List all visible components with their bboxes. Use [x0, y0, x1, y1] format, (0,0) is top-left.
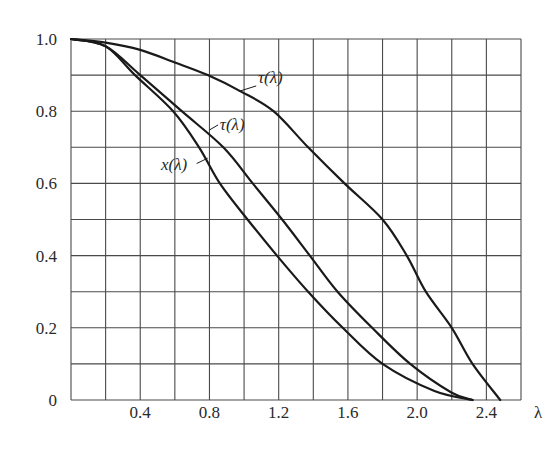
- x-tick-label: 0.8: [199, 403, 220, 422]
- x-tick-label: 1.2: [268, 403, 289, 422]
- y-tick-label: 0.8: [36, 102, 57, 121]
- y-tick-label: 0.6: [36, 174, 57, 193]
- label-leader-line: [239, 86, 256, 91]
- series-label: τ(λ): [258, 68, 283, 87]
- y-tick-label: 0.2: [36, 319, 57, 338]
- curve-labels: τ(λ)τ(λ)x(λ): [160, 68, 283, 174]
- line-chart: τ(λ)τ(λ)x(λ) 00.20.40.60.81.0 0.40.81.21…: [0, 0, 553, 457]
- series-label: x(λ): [160, 155, 188, 174]
- y-axis-ticks: 00.20.40.60.81.0: [36, 30, 58, 410]
- grid: [71, 39, 521, 400]
- x-tick-label: 0.4: [130, 403, 152, 422]
- x-tick-label: 2.0: [407, 403, 428, 422]
- x-tick-label: 1.6: [337, 403, 358, 422]
- y-tick-label: 0: [49, 391, 58, 410]
- series-label: τ(λ): [220, 115, 245, 134]
- x-axis-label: λ: [534, 403, 543, 422]
- x-tick-label: 2.4: [476, 403, 498, 422]
- y-tick-label: 0.4: [36, 247, 58, 266]
- x-axis-ticks: 0.40.81.21.62.02.4: [130, 403, 498, 422]
- y-tick-label: 1.0: [36, 30, 57, 49]
- label-leader-line: [209, 125, 218, 130]
